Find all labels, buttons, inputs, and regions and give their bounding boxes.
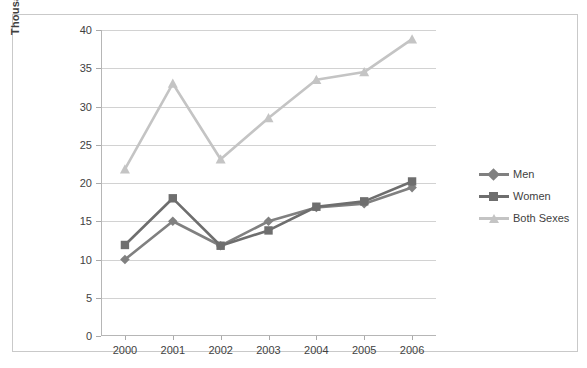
y-tick-label: 30: [52, 101, 92, 113]
data-point: [121, 241, 129, 249]
data-point: [168, 79, 178, 88]
x-tick-label: 2001: [150, 344, 196, 356]
legend-item-label: Women: [513, 190, 551, 202]
y-tick-label: 25: [52, 139, 92, 151]
y-tick-label: 40: [52, 24, 92, 36]
x-tick-mark: [269, 336, 270, 340]
y-tick-label: 15: [52, 215, 92, 227]
legend-marker-icon: [479, 168, 509, 180]
series-plot: [101, 30, 436, 336]
y-tick-label: 10: [52, 254, 92, 266]
x-tick-mark: [125, 336, 126, 340]
x-tick-label: 2005: [341, 344, 387, 356]
data-point: [360, 197, 368, 205]
y-tick-mark: [96, 336, 101, 337]
x-tick-label: 2006: [389, 344, 435, 356]
chart-frame: Thousands 0510152025303540 2000200120022…: [12, 14, 578, 352]
series-men: [120, 183, 417, 265]
legend-item-label: Both Sexes: [513, 212, 569, 224]
x-tick-label: 2004: [293, 344, 339, 356]
series-women: [121, 177, 417, 250]
data-point: [264, 216, 274, 226]
x-tick-mark: [221, 336, 222, 340]
x-tick-label: 2000: [102, 344, 148, 356]
y-axis-title-label: Thousands: [9, 0, 21, 35]
x-tick-mark: [173, 336, 174, 340]
y-tick-label: 0: [52, 330, 92, 342]
x-tick-mark: [316, 336, 317, 340]
x-tick-mark: [364, 336, 365, 340]
data-point: [408, 177, 416, 185]
x-tick-label: 2002: [198, 344, 244, 356]
data-point: [264, 226, 272, 234]
legend-marker-icon: [479, 190, 509, 202]
legend-marker-icon: [479, 212, 509, 224]
series-line: [125, 39, 412, 169]
data-point: [312, 203, 320, 211]
x-tick-label: 2003: [246, 344, 292, 356]
y-axis-title: Thousands: [9, 0, 23, 35]
y-tick-label: 5: [52, 292, 92, 304]
data-point: [407, 34, 417, 43]
series-both-sexes: [120, 34, 417, 173]
legend-item-label: Men: [513, 168, 534, 180]
legend-item-men[interactable]: Men: [479, 163, 579, 185]
x-tick-mark: [412, 336, 413, 340]
legend-item-women[interactable]: Women: [479, 185, 579, 207]
plot-area: 0510152025303540 20002001200220032004200…: [101, 30, 436, 336]
y-tick-label: 20: [52, 177, 92, 189]
legend-item-both-sexes[interactable]: Both Sexes: [479, 207, 579, 229]
chart-legend: MenWomenBoth Sexes: [479, 163, 579, 229]
data-point: [169, 194, 177, 202]
data-point: [216, 242, 224, 250]
y-tick-label: 35: [52, 62, 92, 74]
series-line: [125, 181, 412, 245]
